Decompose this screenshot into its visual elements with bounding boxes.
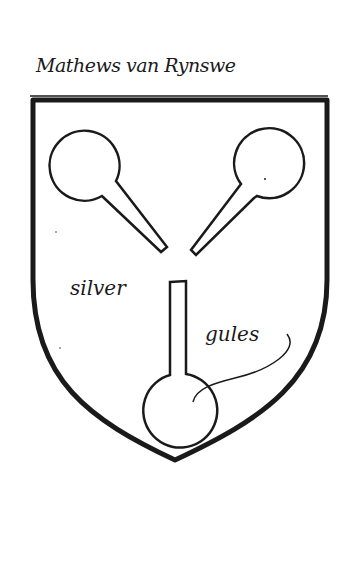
speck — [264, 178, 266, 180]
tincture-label-left: silver — [70, 276, 126, 300]
caption-text: Mathews van Rynswe — [36, 54, 326, 94]
speck — [59, 347, 61, 349]
coat-of-arms-page: Mathews van Rynswe silver gules — [0, 0, 357, 579]
upper-left-charge — [50, 131, 167, 252]
upper-right-charge — [191, 128, 304, 255]
speck — [55, 231, 57, 233]
lower-charge — [143, 281, 217, 448]
tincture-label-right: gules — [205, 322, 259, 346]
